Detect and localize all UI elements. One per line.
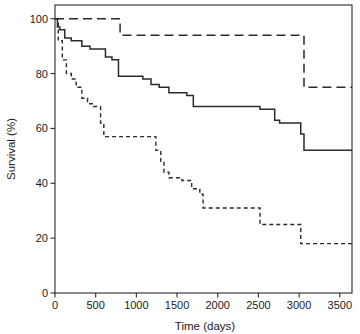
y-tick-label: 0 xyxy=(42,287,48,299)
chart-background xyxy=(0,0,360,334)
x-tick-label: 1500 xyxy=(165,299,189,311)
x-tick-label: 2500 xyxy=(246,299,270,311)
x-tick-label: 2000 xyxy=(205,299,229,311)
y-axis-label: Survival (%) xyxy=(5,118,17,180)
chart-svg: 0500100015002000250030003500 02040608010… xyxy=(0,0,360,334)
x-tick-label: 3000 xyxy=(287,299,311,311)
y-tick-label: 40 xyxy=(36,177,48,189)
y-tick-label: 60 xyxy=(36,122,48,134)
survival-chart-figure: 0500100015002000250030003500 02040608010… xyxy=(0,0,360,334)
y-tick-label: 100 xyxy=(30,13,48,25)
y-tick-label: 20 xyxy=(36,232,48,244)
y-tick-label: 80 xyxy=(36,68,48,80)
x-tick-label: 3500 xyxy=(328,299,352,311)
x-axis-label: Time (days) xyxy=(175,320,235,332)
x-tick-label: 1000 xyxy=(124,299,148,311)
x-tick-label: 500 xyxy=(87,299,105,311)
x-tick-label: 0 xyxy=(52,299,58,311)
